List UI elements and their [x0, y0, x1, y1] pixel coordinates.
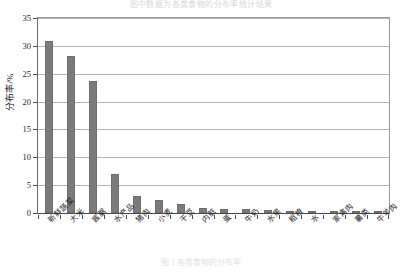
- bar: [67, 56, 75, 213]
- y-tick-label: 10: [3, 153, 31, 162]
- bar-slot: [192, 18, 214, 213]
- bar-slot: [301, 18, 323, 213]
- y-tick-label: 20: [3, 97, 31, 106]
- bar-chart: 分布率/% 05101520253035 新鲜蔬菜大米酱腒水产品猪肉小麦干豆内脏…: [0, 9, 402, 254]
- bar-slot: [323, 18, 345, 213]
- bar: [111, 174, 119, 213]
- bar-slot: [82, 18, 104, 213]
- bar-slot: [345, 18, 367, 213]
- clipped-header-text: 图中数据为各类食物的分布率统计结果: [0, 0, 402, 9]
- bar-slot: [38, 18, 60, 213]
- figure-caption: 图 1 各类食物的分布率: [0, 256, 402, 272]
- x-axis-labels: 新鲜蔬菜大米酱腒水产品猪肉小麦干豆内脏蛋牛奶水果粗粮水家禽肉薯类牛羊肉: [38, 219, 389, 255]
- bar-slot: [214, 18, 236, 213]
- bar: [89, 81, 97, 213]
- bar-series: [38, 18, 389, 213]
- y-tick-label: 0: [3, 209, 31, 218]
- bar-slot: [126, 18, 148, 213]
- bar-slot: [235, 18, 257, 213]
- bar: [155, 200, 163, 213]
- y-tick-label: 5: [3, 181, 31, 190]
- bar-slot: [279, 18, 301, 213]
- bar-slot: [170, 18, 192, 213]
- y-tick-label: 35: [3, 14, 31, 23]
- bar-slot: [367, 18, 389, 213]
- y-tick-label: 25: [3, 69, 31, 78]
- bar-slot: [60, 18, 82, 213]
- bar-slot: [257, 18, 279, 213]
- y-tick-label: 30: [3, 42, 31, 51]
- bar: [45, 41, 53, 213]
- y-tick-label: 15: [3, 125, 31, 134]
- y-axis-ticks: 05101520253035: [0, 17, 34, 214]
- bar-slot: [148, 18, 170, 213]
- bar-slot: [104, 18, 126, 213]
